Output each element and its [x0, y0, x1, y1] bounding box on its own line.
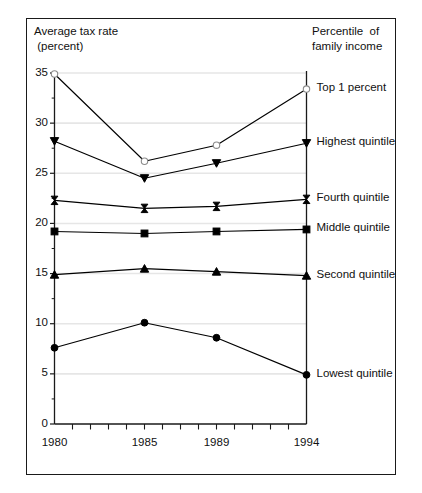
series-label-middle-quintile: Middle quintile: [317, 221, 391, 233]
y-tick-label: 10: [18, 316, 48, 328]
y-tick-label: 15: [18, 266, 48, 278]
series-lines: [55, 74, 307, 375]
series-label-fourth-quintile: Fourth quintile: [317, 191, 390, 203]
y-tick-label: 5: [18, 366, 48, 378]
x-tick-label: 1989: [191, 436, 243, 448]
axis-ticks: [50, 73, 289, 430]
x-tick-label: 1985: [119, 436, 171, 448]
chart-figure: Average tax rate (percent) Percentile of…: [0, 0, 422, 493]
y-tick-label: 30: [18, 116, 48, 128]
x-tick-label: 1980: [29, 436, 81, 448]
y-tick-label: 0: [18, 417, 48, 429]
series-markers: [50, 71, 310, 378]
y-tick-label: 25: [18, 166, 48, 178]
series-label-highest-quintile: Highest quintile: [317, 135, 396, 147]
x-tick-label: 1994: [281, 436, 333, 448]
axes: [55, 71, 307, 424]
y-tick-label: 35: [18, 66, 48, 78]
series-label-lowest-quintile: Lowest quintile: [317, 367, 393, 379]
series-label-second-quintile: Second quintile: [317, 268, 396, 280]
gridlines: [55, 73, 308, 374]
y-tick-label: 20: [18, 216, 48, 228]
series-label-top-1-percent: Top 1 percent: [317, 81, 387, 93]
plot-area: [0, 0, 422, 493]
